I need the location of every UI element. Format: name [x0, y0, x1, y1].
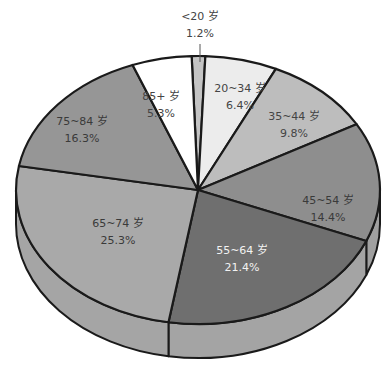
slice-percent-label: 5.3% [147, 107, 175, 120]
slice-percent-label: 16.3% [65, 132, 100, 145]
pie-slices [16, 56, 380, 324]
slice-category-label: <20 岁 [181, 9, 219, 23]
slice-category-label: 65~74 岁 [92, 216, 144, 230]
slice-percent-label: 25.3% [101, 234, 136, 247]
slice-percent-label: 21.4% [225, 261, 260, 274]
slice-percent-label: 9.8% [280, 127, 308, 140]
slice-category-label: 45~54 岁 [302, 193, 354, 207]
slice-percent-label: 1.2% [186, 27, 214, 40]
slice-percent-label: 14.4% [311, 211, 346, 224]
slice-category-label: 75~84 岁 [56, 114, 108, 128]
slice-percent-label: 6.4% [226, 99, 254, 112]
slice-category-label: 55~64 岁 [216, 243, 268, 257]
pie-chart: <20 岁1.2%20~34 岁6.4%35~44 岁9.8%45~54 岁14… [0, 0, 392, 371]
slice-category-label: 85+ 岁 [142, 89, 180, 103]
slice-category-label: 20~34 岁 [214, 81, 266, 95]
slice-category-label: 35~44 岁 [268, 109, 320, 123]
